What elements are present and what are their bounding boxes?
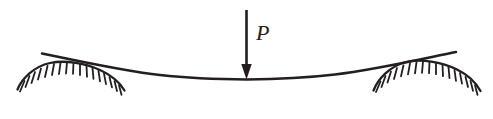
right-support-hatching <box>376 62 478 95</box>
load-label-P: P <box>256 22 269 44</box>
beam-load-diagram: P <box>0 0 493 119</box>
diagram-canvas <box>0 0 493 119</box>
load-arrow <box>241 10 251 80</box>
load-arrow-head <box>241 64 251 80</box>
